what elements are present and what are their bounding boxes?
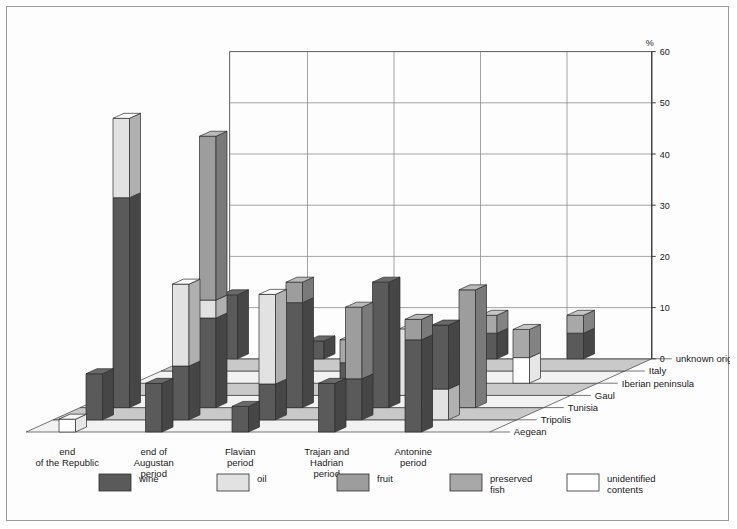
bar-face-front <box>432 325 449 389</box>
axis-unit-label: % <box>646 38 654 48</box>
bar-face-side <box>130 113 141 197</box>
bar-antonine-period-iberian-peninsula <box>513 324 541 383</box>
legend-label: fish <box>490 484 505 495</box>
bar-face-side <box>335 378 346 432</box>
category-label-3: period <box>314 468 340 479</box>
bar-face-side <box>530 324 541 357</box>
category-label-0: end <box>59 446 75 457</box>
bar-face-front <box>432 389 449 420</box>
bar-face-front <box>200 300 217 318</box>
bar-face-front <box>259 384 276 420</box>
bar-face-front <box>173 366 190 420</box>
bar-antonine-period-aegean <box>405 314 433 432</box>
bar-face-side <box>303 298 314 408</box>
legend-label: preserved <box>490 473 532 484</box>
bar-trajan-and-hadrian-period-aegean <box>319 378 347 432</box>
bar-face-side <box>389 277 400 407</box>
depth-axis-label-3: Gaul <box>595 390 615 401</box>
legend-item-fruit: fruit <box>337 473 393 491</box>
ytick-label-60: 60 <box>660 47 670 57</box>
category-label-2: period <box>227 457 253 468</box>
legend-swatch <box>337 474 369 491</box>
chart-frame: 0102030405060%unknown originItalyIberian… <box>6 6 729 521</box>
ytick-label-10: 10 <box>660 303 670 313</box>
bar-face-side <box>238 290 249 359</box>
legend-swatch <box>450 474 482 491</box>
bar-face-side <box>362 374 373 420</box>
ytick-label-0: 0 <box>660 354 665 364</box>
depth-axis-label-1: Italy <box>649 365 667 376</box>
bar-face-front <box>286 282 303 302</box>
category-label-4: Antonine <box>394 446 432 457</box>
legend-label: wine <box>138 473 159 484</box>
bar-face-front <box>86 374 103 420</box>
bar-face-front <box>200 318 217 408</box>
bar-face-front <box>286 303 303 408</box>
ytick-label-50: 50 <box>660 98 670 108</box>
bar-face-side <box>362 302 373 379</box>
bar-end-of-augustan-period-tripolis <box>173 279 201 420</box>
bar-end-of-augustan-period-aegean <box>146 378 174 432</box>
bar-face-side <box>103 369 114 420</box>
bar-antonine-period-tunisia <box>459 285 487 408</box>
category-label-3: Trajan and <box>304 446 349 457</box>
bar-chart-3d: 0102030405060%unknown originItalyIberian… <box>7 7 730 522</box>
bar-face-side <box>476 285 487 408</box>
bar-face-side <box>216 313 227 408</box>
legend-swatch <box>99 474 131 491</box>
category-label-1: Augustan <box>134 457 174 468</box>
bar-face-front <box>373 282 390 407</box>
bar-flavian-period-tripolis <box>259 289 287 419</box>
bar-face-side <box>276 289 287 384</box>
bar-antonine-period-tripolis <box>432 320 460 420</box>
bar-face-front <box>200 136 217 300</box>
depth-axis-label-0: unknown origin <box>676 353 730 364</box>
bar-face-side <box>216 131 227 300</box>
bar-trajan-and-hadrian-period-tripolis <box>346 302 374 420</box>
category-label-2: Flavian <box>225 446 256 457</box>
category-label-4: period <box>400 457 426 468</box>
bar-face-front <box>59 419 76 432</box>
ytick-label-40: 40 <box>660 150 670 160</box>
legend-swatch <box>567 474 599 491</box>
bar-flavian-period-aegean <box>232 401 260 432</box>
bar-face-front <box>173 284 190 366</box>
legend-label: unidentified <box>607 473 656 484</box>
depth-axis-label-2: Iberian peninsula <box>622 378 695 389</box>
bar-face-front <box>113 118 130 197</box>
bar-face-front <box>232 406 249 432</box>
bar-face-front <box>259 294 276 384</box>
bar-face-front <box>513 329 530 357</box>
bar-end-of-augustan-period-tunisia <box>200 131 228 407</box>
bar-face-front <box>146 383 163 432</box>
bar-face-side <box>276 379 287 420</box>
category-label-1: end of <box>141 446 168 457</box>
bar-face-front <box>567 315 584 333</box>
bar-face-side <box>449 320 460 389</box>
bar-face-front <box>346 307 363 379</box>
bar-face-front <box>513 358 530 384</box>
bar-end-of-the-republic-tripolis <box>86 369 114 420</box>
bar-trajan-and-hadrian-period-tunisia <box>373 277 401 407</box>
bar-face-side <box>422 335 433 432</box>
floor-band-0 <box>26 420 517 432</box>
legend-item-oil: oil <box>217 473 267 491</box>
legend-item-unidentified-contents: unidentifiedcontents <box>567 473 656 495</box>
bar-face-front <box>459 290 476 408</box>
legend-item-preserved-fish: preservedfish <box>450 473 532 495</box>
legend-label: contents <box>607 484 643 495</box>
legend-item-wine: wine <box>99 473 159 491</box>
bar-antonine-period-unknown-origin <box>567 310 595 359</box>
depth-axis-label-5: Tripolis <box>541 414 572 425</box>
bar-face-front <box>113 198 130 408</box>
bar-end-of-the-republic-tunisia <box>113 113 141 407</box>
bar-face-side <box>130 193 141 408</box>
legend-swatch <box>217 474 249 491</box>
depth-axis-label-4: Tunisia <box>568 402 599 413</box>
floor-band-1 <box>53 408 544 420</box>
legend-label: fruit <box>377 473 393 484</box>
bar-face-side <box>162 378 173 432</box>
bar-flavian-period-tunisia <box>286 277 314 407</box>
ytick-label-20: 20 <box>660 252 670 262</box>
bar-face-front <box>405 319 422 339</box>
